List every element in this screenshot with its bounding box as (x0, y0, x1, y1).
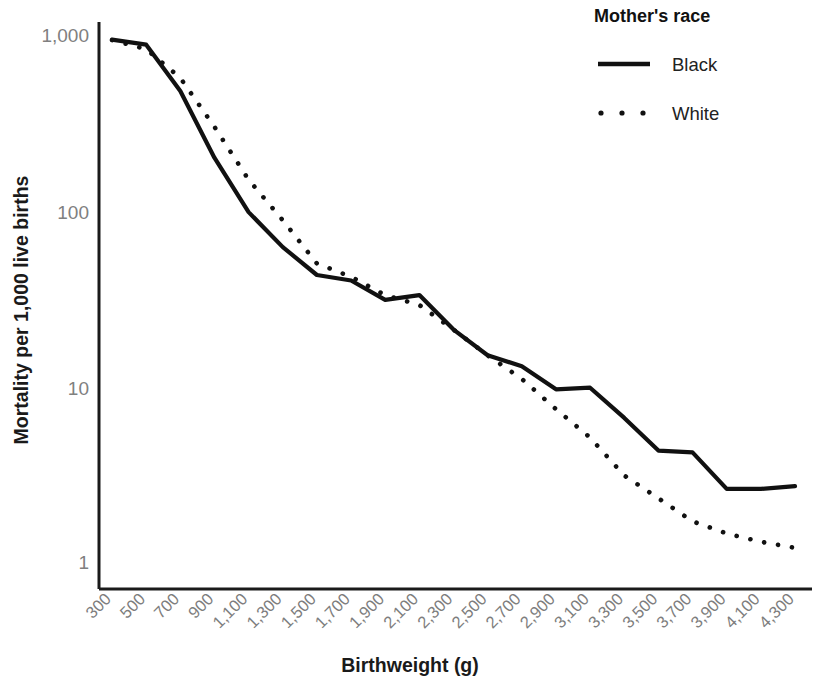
legend-label-black: Black (672, 54, 718, 75)
legend-title: Mother's race (594, 6, 710, 26)
x-tick-label-700: 700 (150, 589, 182, 621)
x-tick-label-1300: 1,300 (243, 589, 285, 631)
y-axis-title: Mortality per 1,000 live births (10, 175, 32, 444)
x-tick-label-2300: 2,300 (414, 589, 456, 631)
x-tick-label-2100: 2,100 (380, 589, 422, 631)
y-tick-label-1: 1 (78, 552, 89, 573)
x-tick-label-2900: 2,900 (516, 589, 558, 631)
x-tick-label-1100: 1,100 (209, 589, 251, 631)
x-tick-label-3100: 3,100 (550, 589, 592, 631)
x-tick-label-1500: 1,500 (277, 589, 319, 631)
legend-label-white: White (672, 103, 719, 124)
mortality-by-birthweight-chart: 1,000 100 10 1 3005007009001,1001,3001,5… (0, 0, 821, 680)
x-tick-label-500: 500 (116, 589, 148, 621)
legend-swatch-dotted-line (598, 110, 645, 115)
x-tick-label-4300: 4,300 (755, 589, 797, 631)
x-tick-label-1900: 1,900 (345, 589, 387, 631)
x-tick-label-2700: 2,700 (482, 589, 524, 631)
legend: Mother's race Black White (594, 6, 719, 124)
x-tick-label-3900: 3,900 (687, 589, 729, 631)
x-axis-title: Birthweight (g) (341, 654, 479, 676)
x-tick-label-300: 300 (82, 589, 114, 621)
x-axis-tick-labels: 3005007009001,1001,3001,5001,7001,9002,1… (82, 589, 797, 631)
y-tick-label-100: 100 (57, 202, 89, 223)
y-tick-label-10: 10 (68, 378, 89, 399)
y-axis-tick-labels: 1,000 100 10 1 (41, 25, 89, 573)
y-tick-label-1000: 1,000 (41, 25, 89, 46)
x-tick-label-3300: 3,300 (584, 589, 626, 631)
x-tick-label-1700: 1,700 (311, 589, 353, 631)
x-tick-label-4100: 4,100 (721, 589, 763, 631)
x-tick-label-2500: 2,500 (448, 589, 490, 631)
x-tick-label-3700: 3,700 (653, 589, 695, 631)
x-tick-label-3500: 3,500 (619, 589, 661, 631)
